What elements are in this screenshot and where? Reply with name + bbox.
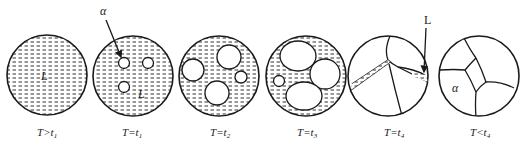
- specimen-circle: [93, 36, 173, 116]
- stage-5-label: T=t4: [384, 126, 405, 140]
- liquid-label: L: [137, 87, 145, 101]
- alpha-grain: [286, 82, 322, 110]
- alpha-grain: [235, 71, 247, 83]
- alpha-nucleus: [119, 58, 130, 69]
- stage-1-liquid: L: [7, 35, 87, 115]
- grain-boundary: [476, 92, 477, 118]
- alpha-nucleus: [119, 82, 130, 93]
- alpha-grain: [182, 59, 204, 81]
- stage-6-solid: α: [439, 36, 519, 118]
- stage-4-label: T=t3: [297, 126, 318, 140]
- stage-labels: T>t1 T=t1 T=t2 T=t3 T=t4 T<t4: [37, 126, 491, 140]
- alpha-grain: [280, 41, 316, 71]
- alpha-grain: [274, 76, 285, 87]
- stage-2-label: T=t1: [122, 126, 142, 140]
- solidification-diagram: L α L: [0, 0, 525, 150]
- alpha-grain: [217, 45, 241, 69]
- stage-4-impingement: [266, 36, 346, 116]
- stage-1-label: T>t1: [37, 126, 57, 140]
- liquid-label: L: [40, 69, 48, 83]
- alpha-grain: [205, 81, 229, 105]
- alpha-phase-label: α: [452, 81, 459, 95]
- alpha-nucleus: [143, 58, 154, 69]
- stage-6-label: T<t4: [470, 126, 491, 140]
- stage-2-nucleation: α L: [93, 4, 173, 116]
- stage-5-residual-liquid: L: [348, 13, 431, 116]
- alpha-arrow-label: α: [100, 4, 107, 18]
- liquid-arrow-label: L: [424, 13, 431, 27]
- stage-3-label: T=t2: [210, 126, 231, 140]
- stage-3-growth: [179, 36, 259, 116]
- specimen-circle: [439, 36, 519, 116]
